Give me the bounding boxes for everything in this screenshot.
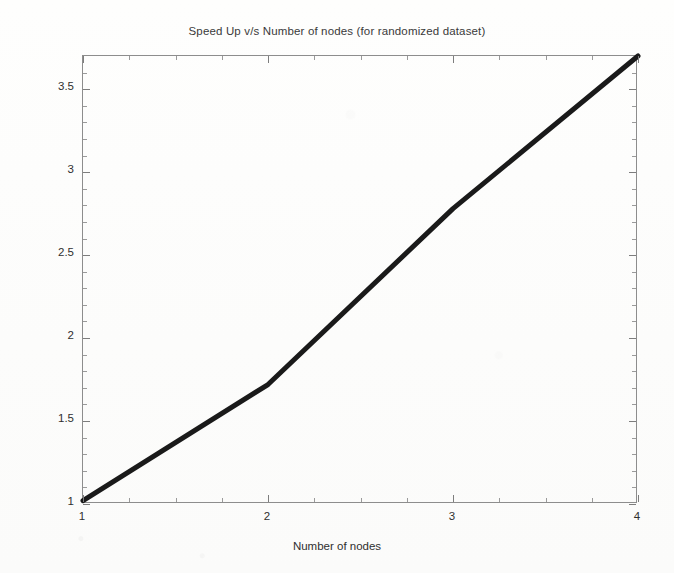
x-tick-minor xyxy=(176,498,177,502)
x-tick-label: 2 xyxy=(247,510,287,522)
x-tick-major xyxy=(268,495,269,502)
x-tick-minor xyxy=(499,498,500,502)
x-tick-major xyxy=(638,495,639,502)
y-tick-major-right xyxy=(629,89,636,90)
y-tick-minor xyxy=(83,122,87,123)
y-tick-minor xyxy=(83,404,87,405)
x-tick-minor xyxy=(361,498,362,502)
x-tick-minor-top xyxy=(499,56,500,60)
y-tick-label: 1 xyxy=(0,495,74,507)
y-tick-major-right xyxy=(629,172,636,173)
x-tick-minor-top xyxy=(546,56,547,60)
x-tick-minor-top xyxy=(176,56,177,60)
y-tick-major-right xyxy=(629,421,636,422)
chart-title: Speed Up v/s Number of nodes (for random… xyxy=(0,25,674,37)
x-tick-label: 1 xyxy=(62,510,102,522)
x-tick-minor xyxy=(314,498,315,502)
y-tick-minor-right xyxy=(632,239,636,240)
y-tick-minor-right xyxy=(632,404,636,405)
y-tick-minor xyxy=(83,355,87,356)
y-tick-minor-right xyxy=(632,156,636,157)
y-tick-minor xyxy=(83,305,87,306)
y-tick-minor-right xyxy=(632,288,636,289)
y-tick-minor-right xyxy=(632,371,636,372)
y-tick-minor-right xyxy=(632,272,636,273)
y-tick-major xyxy=(83,255,90,256)
figure-page: Speed Up v/s Number of nodes (for random… xyxy=(0,0,674,573)
y-tick-minor-right xyxy=(632,189,636,190)
x-tick-minor-top xyxy=(129,56,130,60)
y-tick-major xyxy=(83,172,90,173)
y-tick-minor xyxy=(83,321,87,322)
y-tick-minor-right xyxy=(632,438,636,439)
y-tick-minor xyxy=(83,371,87,372)
y-tick-minor xyxy=(83,106,87,107)
y-tick-minor xyxy=(83,388,87,389)
x-tick-minor xyxy=(592,498,593,502)
y-tick-minor-right xyxy=(632,471,636,472)
y-tick-minor xyxy=(83,471,87,472)
y-tick-minor xyxy=(83,272,87,273)
y-tick-major-right xyxy=(629,338,636,339)
y-tick-minor xyxy=(83,205,87,206)
y-tick-major xyxy=(83,338,90,339)
x-tick-minor xyxy=(546,498,547,502)
y-tick-minor xyxy=(83,438,87,439)
x-tick-minor-top xyxy=(407,56,408,60)
x-tick-minor-top xyxy=(314,56,315,60)
y-tick-minor-right xyxy=(632,106,636,107)
y-tick-major xyxy=(83,504,90,505)
y-tick-minor xyxy=(83,239,87,240)
y-tick-minor xyxy=(83,189,87,190)
x-axis-title: Number of nodes xyxy=(0,540,674,552)
y-tick-label: 1.5 xyxy=(0,412,74,424)
x-tick-major xyxy=(83,495,84,502)
y-tick-major xyxy=(83,89,90,90)
y-tick-minor-right xyxy=(632,454,636,455)
x-tick-minor xyxy=(407,498,408,502)
y-tick-minor xyxy=(83,73,87,74)
x-tick-major xyxy=(453,495,454,502)
y-tick-minor-right xyxy=(632,222,636,223)
y-tick-label: 2.5 xyxy=(0,246,74,258)
x-tick-major-top xyxy=(268,56,269,63)
y-tick-minor-right xyxy=(632,388,636,389)
x-tick-minor-top xyxy=(361,56,362,60)
y-tick-minor-right xyxy=(632,305,636,306)
x-tick-minor-top xyxy=(222,56,223,60)
y-tick-minor xyxy=(83,156,87,157)
y-tick-minor-right xyxy=(632,73,636,74)
data-series-line xyxy=(83,56,638,504)
y-tick-minor-right xyxy=(632,205,636,206)
x-tick-label: 3 xyxy=(432,510,472,522)
x-tick-label: 4 xyxy=(617,510,657,522)
y-tick-minor-right xyxy=(632,355,636,356)
y-tick-major-right xyxy=(629,504,636,505)
y-tick-minor-right xyxy=(632,487,636,488)
y-tick-minor xyxy=(83,222,87,223)
y-tick-minor xyxy=(83,139,87,140)
y-tick-label: 2 xyxy=(0,329,74,341)
plot-area xyxy=(82,55,637,503)
x-tick-minor xyxy=(129,498,130,502)
y-tick-minor-right xyxy=(632,122,636,123)
x-tick-major-top xyxy=(453,56,454,63)
y-tick-minor xyxy=(83,454,87,455)
x-tick-major-top xyxy=(638,56,639,63)
y-tick-label: 3.5 xyxy=(0,80,74,92)
y-tick-major-right xyxy=(629,255,636,256)
y-tick-label: 3 xyxy=(0,163,74,175)
y-tick-minor xyxy=(83,487,87,488)
y-tick-minor xyxy=(83,288,87,289)
x-tick-minor-top xyxy=(592,56,593,60)
y-tick-minor-right xyxy=(632,321,636,322)
y-tick-minor-right xyxy=(632,139,636,140)
x-tick-minor xyxy=(222,498,223,502)
y-tick-major xyxy=(83,421,90,422)
x-tick-major-top xyxy=(83,56,84,63)
